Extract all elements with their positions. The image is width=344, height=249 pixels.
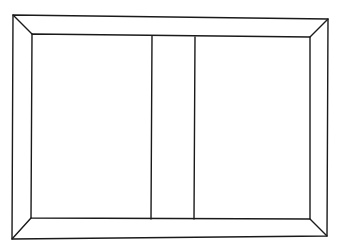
bevel-bottom-right <box>310 219 327 236</box>
vertical-divider-left <box>151 36 152 219</box>
inner-panel <box>31 34 310 219</box>
vertical-divider-right <box>194 37 195 219</box>
outer-frame <box>12 15 328 239</box>
bevel-top-right <box>310 19 328 37</box>
sketch-canvas <box>0 0 344 249</box>
bevel-bottom-left <box>12 218 31 239</box>
bevel-top-left <box>13 15 32 34</box>
